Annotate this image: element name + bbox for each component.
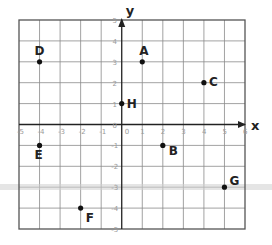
x-tick-label: 6 [243, 128, 248, 136]
y-tick-label: -5 [111, 226, 118, 234]
y-tick-label: 1 [112, 101, 116, 109]
x-tick-label: -4 [38, 128, 46, 136]
point-h-label: H [127, 97, 137, 111]
y-tick-label: -2 [111, 163, 118, 171]
x-tick-label: 4 [202, 128, 207, 136]
plotted-points: ABCDEFGH [35, 44, 240, 225]
x-axis-label: x [251, 118, 260, 133]
grid-svg: xy -5-4-3-2-10123456543210-1-2-3-4-5 ABC… [0, 0, 272, 245]
y-tick-label: 0 [112, 122, 116, 130]
point-e-label: E [35, 148, 43, 162]
y-tick-label: 4 [112, 38, 117, 46]
point-h-marker [119, 101, 124, 106]
y-tick-label: -3 [111, 184, 118, 192]
point-c-marker [201, 80, 206, 85]
y-axis-label: y [126, 3, 135, 18]
point-d-marker [37, 59, 42, 64]
x-tick-label: 2 [161, 128, 165, 136]
point-a-label: A [139, 44, 149, 58]
y-tick-label: 2 [112, 80, 116, 88]
tick-labels: -5-4-3-2-10123456543210-1-2-3-4-5 [17, 17, 248, 234]
x-tick-label: -1 [99, 128, 106, 136]
point-c-label: C [209, 75, 218, 89]
x-tick-label: 3 [181, 128, 185, 136]
y-tick-label: -1 [111, 142, 118, 150]
y-tick-label: 5 [112, 17, 116, 25]
x-tick-label: 0 [125, 128, 129, 136]
coordinate-grid-diagram: xy -5-4-3-2-10123456543210-1-2-3-4-5 ABC… [0, 0, 272, 245]
axes: xy [19, 3, 260, 229]
point-a-marker [140, 59, 145, 64]
x-tick-label: 1 [140, 128, 144, 136]
x-tick-label: 5 [222, 128, 226, 136]
point-d-label: D [35, 44, 45, 58]
point-f-label: F [86, 211, 94, 225]
point-e-marker [37, 143, 42, 148]
x-tick-label: -2 [79, 128, 86, 136]
point-f-marker [78, 206, 83, 211]
y-tick-label: 3 [112, 59, 116, 67]
x-tick-label: -5 [17, 128, 24, 136]
point-g-label: G [229, 174, 239, 188]
point-b-marker [160, 143, 165, 148]
point-g-marker [222, 185, 227, 190]
x-tick-label: -3 [58, 128, 65, 136]
y-tick-label: -4 [111, 205, 119, 213]
point-b-label: B [169, 144, 178, 158]
